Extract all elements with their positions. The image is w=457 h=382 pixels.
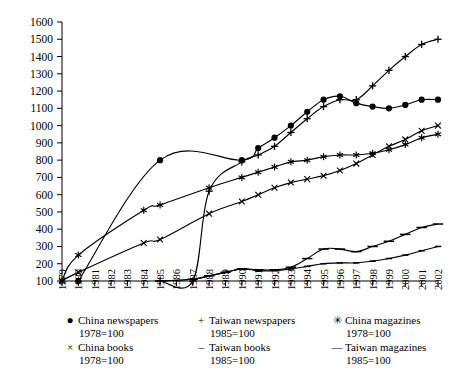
data-point-marker — [370, 104, 376, 110]
x-axis-tick-label: 1988 — [204, 269, 215, 290]
legend-item-china-books: × China books 1978=100 — [62, 341, 193, 368]
x-axis-tick-label: 2002 — [433, 269, 444, 290]
legend-marker-short-dash-icon: – — [193, 341, 209, 354]
data-point-marker — [435, 97, 441, 103]
data-point-marker — [288, 123, 294, 129]
legend-label: China magazines — [345, 314, 420, 327]
y-axis-tick-label: 900 — [36, 137, 54, 149]
legend-marker-star-icon: ✳ — [329, 314, 345, 327]
series-taiwan-newspapers — [156, 36, 441, 289]
legend-base: 1978=100 — [345, 327, 420, 340]
x-axis-tick-label: 1996 — [335, 269, 346, 290]
legend-marker-long-dash-icon: — — [329, 341, 345, 354]
legend-base: 1978=100 — [78, 327, 158, 340]
y-axis-tick-label: 1300 — [30, 68, 53, 80]
y-axis-tick-label: 800 — [36, 154, 54, 166]
x-axis-tick-label: 1994 — [302, 268, 313, 290]
legend-item-taiwan-books: – Taiwan books 1985=100 — [193, 341, 329, 368]
data-point-marker — [304, 109, 310, 115]
y-axis-tick-label: 1500 — [30, 33, 53, 45]
y-axis-tick-label: 1200 — [30, 85, 53, 97]
series-line — [78, 96, 438, 281]
legend-label: Taiwan newspapers — [209, 314, 295, 327]
legend-label: China newspapers — [78, 314, 158, 327]
x-axis-tick-label: 1993 — [286, 269, 297, 290]
chart-legend: ● China newspapers 1978=100 + Taiwan new… — [62, 314, 454, 368]
series-china-newspapers — [75, 93, 441, 284]
x-axis-tick-label: 1992 — [270, 269, 281, 290]
y-axis-tick-label: 1100 — [30, 102, 53, 114]
series-china-magazines — [59, 131, 441, 285]
x-axis-tick-label: 1984 — [139, 268, 150, 290]
legend-base: 1985=100 — [209, 354, 270, 367]
y-axis-tick-label: 1600 — [30, 16, 53, 28]
x-axis-tick-label: 1981 — [90, 269, 101, 290]
y-axis-tick-label: 600 — [36, 189, 54, 201]
chart-container: 1002003004005006007008009001000110012001… — [0, 0, 457, 382]
y-axis-tick-label: 700 — [36, 171, 54, 183]
legend-marker-cross-icon: × — [62, 341, 78, 354]
data-point-marker — [271, 135, 277, 141]
legend-base: 1985=100 — [209, 327, 295, 340]
data-point-marker — [402, 102, 408, 108]
data-point-marker — [157, 157, 163, 163]
legend-item-taiwan-newspapers: + Taiwan newspapers 1985=100 — [193, 314, 329, 341]
legend-marker-plus-icon: + — [193, 314, 209, 327]
x-axis-tick-label: 1998 — [368, 269, 379, 290]
data-point-marker — [386, 105, 392, 111]
series-line — [160, 39, 438, 288]
x-axis-tick-label: 2000 — [400, 269, 411, 290]
legend-label: China books — [78, 341, 133, 354]
y-axis-tick-label: 1400 — [30, 51, 53, 63]
x-axis-tick-label: 1983 — [122, 269, 133, 290]
legend-label: Taiwan magazines — [345, 341, 426, 354]
x-axis-tick-label: 1990 — [237, 269, 248, 290]
y-axis-tick-label: 200 — [36, 258, 54, 270]
data-point-marker — [255, 145, 261, 151]
x-axis-tick-label: 1995 — [319, 269, 330, 290]
x-axis-tick-label: 1982 — [106, 269, 117, 290]
legend-marker-filled-circle-icon: ● — [62, 314, 78, 328]
x-axis-tick-label: 1986 — [171, 269, 182, 290]
y-axis-tick-label: 100 — [36, 275, 54, 287]
data-point-marker — [419, 97, 425, 103]
series-line — [62, 126, 438, 281]
legend-base: 1985=100 — [345, 354, 426, 367]
data-point-marker — [75, 278, 81, 284]
legend-base: 1978=100 — [78, 354, 133, 367]
x-axis-tick-label: 1997 — [351, 269, 362, 290]
series-line — [62, 134, 438, 281]
x-axis-tick-label: 2001 — [417, 269, 428, 290]
legend-label: Taiwan books — [209, 341, 270, 354]
x-axis-tick-label: 1991 — [253, 269, 264, 290]
legend-item-taiwan-magazines: — Taiwan magazines 1985=100 — [329, 341, 454, 368]
data-point-marker — [320, 97, 326, 103]
y-axis-tick-label: 400 — [36, 223, 54, 235]
legend-item-china-newspapers: ● China newspapers 1978=100 — [62, 314, 193, 341]
y-axis-tick-label: 1000 — [30, 120, 53, 132]
y-axis-tick-label: 500 — [36, 206, 54, 218]
x-axis-tick-label: 1999 — [384, 269, 395, 290]
y-axis-tick-label: 300 — [36, 240, 54, 252]
legend-item-china-magazines: ✳ China magazines 1978=100 — [329, 314, 454, 341]
